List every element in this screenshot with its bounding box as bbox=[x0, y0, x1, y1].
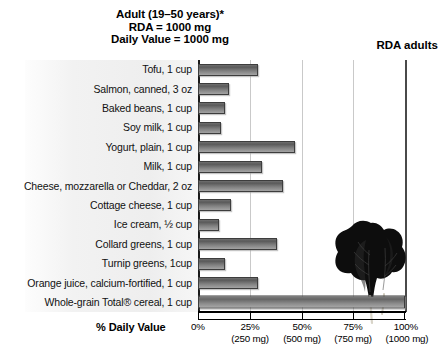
row-label: Cheese, mozzarella or Cheddar, 2 oz bbox=[0, 181, 192, 192]
row-label: Yogurt, plain, 1 cup bbox=[0, 142, 192, 153]
table-row: Ice cream, ½ cup bbox=[0, 215, 445, 234]
x-tick-label-75: 75% bbox=[325, 321, 381, 332]
x-tick-100 bbox=[404, 311, 405, 320]
bar bbox=[198, 83, 229, 95]
x-tick-25 bbox=[250, 311, 251, 320]
table-row: Whole-grain Total® cereal, 1 cup bbox=[0, 293, 445, 312]
table-row: Cheese, mozzarella or Cheddar, 2 oz bbox=[0, 176, 445, 195]
table-row: Salmon, canned, 3 oz bbox=[0, 79, 445, 98]
row-label: Ice cream, ½ cup bbox=[0, 219, 192, 230]
rda-adults-annotation: RDA adults bbox=[376, 39, 438, 51]
table-row: Tofu, 1 cup bbox=[0, 60, 445, 79]
plot-area: Tofu, 1 cup Salmon, canned, 3 oz Baked b… bbox=[0, 60, 445, 312]
row-label: Collard greens, 1 cup bbox=[0, 239, 192, 250]
bar bbox=[198, 180, 283, 192]
x-tick-sublabel-25: (250 mg) bbox=[222, 333, 278, 344]
x-tick-sublabel-100: (1000 mg) bbox=[374, 333, 440, 344]
table-row: Turnip greens, 1cup bbox=[0, 254, 445, 273]
bar bbox=[198, 258, 225, 270]
bar bbox=[198, 219, 219, 231]
bar bbox=[198, 64, 258, 76]
x-axis-title: % Daily Value bbox=[96, 321, 166, 333]
bar bbox=[198, 141, 295, 153]
table-row: Collard greens, 1 cup bbox=[0, 235, 445, 254]
chart-header: Adult (19–50 years)* RDA = 1000 mg Daily… bbox=[48, 8, 292, 46]
row-label: Salmon, canned, 3 oz bbox=[0, 84, 192, 95]
row-label: Milk, 1 cup bbox=[0, 161, 192, 172]
bar bbox=[198, 161, 262, 173]
bar bbox=[198, 102, 225, 114]
bar bbox=[198, 122, 221, 134]
row-label: Turnip greens, 1cup bbox=[0, 258, 192, 269]
table-row: Orange juice, calcium-fortified, 1 cup bbox=[0, 273, 445, 292]
row-label: Cottage cheese, 1 cup bbox=[0, 200, 192, 211]
table-row: Soy milk, 1 cup bbox=[0, 118, 445, 137]
header-line-age: Adult (19–50 years)* bbox=[48, 8, 292, 21]
x-tick-sublabel-75: (750 mg) bbox=[325, 333, 381, 344]
row-label: Whole-grain Total® cereal, 1 cup bbox=[0, 297, 192, 308]
bar bbox=[198, 296, 405, 309]
calcium-food-sources-chart: Adult (19–50 years)* RDA = 1000 mg Daily… bbox=[0, 0, 445, 356]
table-row: Cottage cheese, 1 cup bbox=[0, 196, 445, 215]
x-tick-label-50: 50% bbox=[274, 321, 330, 332]
row-label: Soy milk, 1 cup bbox=[0, 122, 192, 133]
bar bbox=[198, 199, 231, 211]
bar bbox=[198, 238, 277, 250]
table-row: Yogurt, plain, 1 cup bbox=[0, 138, 445, 157]
row-label: Orange juice, calcium-fortified, 1 cup bbox=[0, 278, 192, 289]
row-label: Tofu, 1 cup bbox=[0, 64, 192, 75]
header-line-dv: Daily Value = 1000 mg bbox=[48, 33, 292, 46]
x-tick-label-0: 0% bbox=[184, 321, 212, 332]
header-line-rda: RDA = 1000 mg bbox=[48, 21, 292, 34]
x-tick-0 bbox=[198, 311, 199, 320]
x-tick-50 bbox=[302, 311, 303, 320]
table-row: Baked beans, 1 cup bbox=[0, 99, 445, 118]
x-tick-sublabel-50: (500 mg) bbox=[274, 333, 330, 344]
bar bbox=[198, 277, 258, 289]
x-tick-label-100: 100% bbox=[376, 321, 436, 332]
x-tick-75 bbox=[353, 311, 354, 320]
row-label: Baked beans, 1 cup bbox=[0, 103, 192, 114]
x-tick-label-25: 25% bbox=[222, 321, 278, 332]
bar-rows: Tofu, 1 cup Salmon, canned, 3 oz Baked b… bbox=[0, 60, 445, 312]
table-row: Milk, 1 cup bbox=[0, 157, 445, 176]
